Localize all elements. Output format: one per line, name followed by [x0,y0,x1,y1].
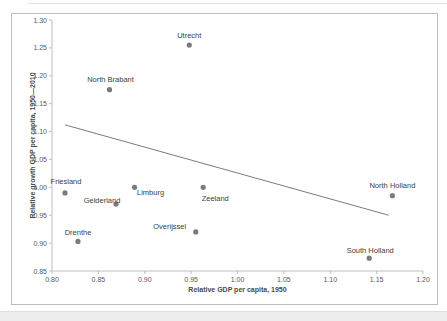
data-point-utrecht [187,43,192,48]
data-point-zeeland [201,185,206,190]
x-axis-title: Relative GDP per capita, 1950 [188,286,286,294]
y-tick-label: 1.30 [33,17,47,24]
y-tick-label: 1.10 [33,128,47,135]
x-tick-label: 0.95 [184,276,198,283]
data-point-drenthe [75,239,80,244]
point-label-zeeland: Zeeland [202,194,229,203]
point-label-utrecht: Utrecht [177,31,202,40]
point-label-limburg: Limburg [137,188,164,197]
point-label-gelderland: Gelderland [84,196,121,205]
x-tick-label: 0.80 [45,276,59,283]
y-tick-label: 1.20 [33,72,47,79]
data-point-north-brabant [107,87,112,92]
data-point-friesland [62,190,67,195]
y-tick-label: 0.95 [33,212,47,219]
x-tick-label: 1.05 [277,276,291,283]
x-tick-label: 0.85 [92,276,106,283]
x-tick-label: 1.00 [231,276,245,283]
x-tick-label: 1.15 [370,276,384,283]
point-label-overijssel: Overijssel [153,222,186,231]
y-tick-label: 0.90 [33,240,47,247]
point-label-friesland: Friesland [51,177,82,186]
y-tick-label: 1.15 [33,100,47,107]
data-point-overijssel [193,229,198,234]
point-label-south-holland: South Holland [347,246,394,255]
y-tick-label: 1.00 [33,184,47,191]
point-label-north-holland: North Holland [369,181,415,190]
chart-frame: Relative GDP per capita, 1950 Relative g… [11,13,438,305]
data-point-south-holland [367,256,372,261]
x-tick-label: 0.90 [138,276,152,283]
point-label-drenthe: Drenthe [65,228,92,237]
y-tick-label: 0.85 [33,268,47,275]
page-bottom-edge-strip [0,311,447,321]
x-tick-label: 1.20 [416,276,430,283]
x-tick-label: 1.10 [323,276,337,283]
y-tick-label: 1.25 [33,44,47,51]
page-top-edge-line [28,3,447,4]
y-axis-title: Relative growth GDP per capita, 1950—201… [29,72,37,218]
scatter-plot: Relative GDP per capita, 1950 Relative g… [12,14,437,304]
y-tick-label: 1.05 [33,156,47,163]
point-label-north-brabant: North Brabant [87,75,135,84]
data-point-north-holland [390,193,395,198]
